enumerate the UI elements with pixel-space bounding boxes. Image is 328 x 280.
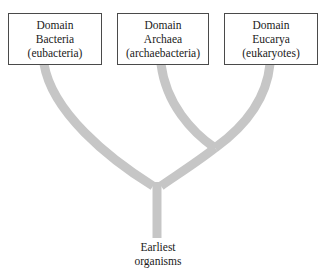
domain-box-eucarya-line2: Eucarya xyxy=(252,32,290,46)
branch-bacteria xyxy=(44,64,153,186)
domain-box-eucarya: Domain Eucarya (eukaryotes) xyxy=(224,13,318,65)
domain-box-eucarya-line3: (eukaryotes) xyxy=(242,46,299,60)
branch-internal xyxy=(161,148,215,186)
domain-box-eucarya-line1: Domain xyxy=(252,18,289,32)
domain-box-bacteria: Domain Bacteria (eubacteria) xyxy=(8,13,102,65)
root-caption-line1: Earliest xyxy=(104,240,212,254)
phylogenetic-tree-figure: Domain Bacteria (eubacteria) Domain Arch… xyxy=(0,0,328,280)
domain-box-archaea-line1: Domain xyxy=(144,18,181,32)
root-caption: Earliest organisms xyxy=(104,240,212,268)
domain-box-bacteria-line1: Domain xyxy=(36,18,73,32)
branch-eucarya xyxy=(215,64,270,148)
domain-box-archaea: Domain Archaea (archaebacteria) xyxy=(117,13,209,65)
domain-box-archaea-line2: Archaea xyxy=(144,32,182,46)
domain-box-bacteria-line3: (eubacteria) xyxy=(28,46,83,60)
root-caption-line2: organisms xyxy=(104,254,212,268)
domain-box-archaea-line3: (archaebacteria) xyxy=(126,46,200,60)
branch-archaea xyxy=(161,64,215,148)
domain-box-bacteria-line2: Bacteria xyxy=(36,32,74,46)
